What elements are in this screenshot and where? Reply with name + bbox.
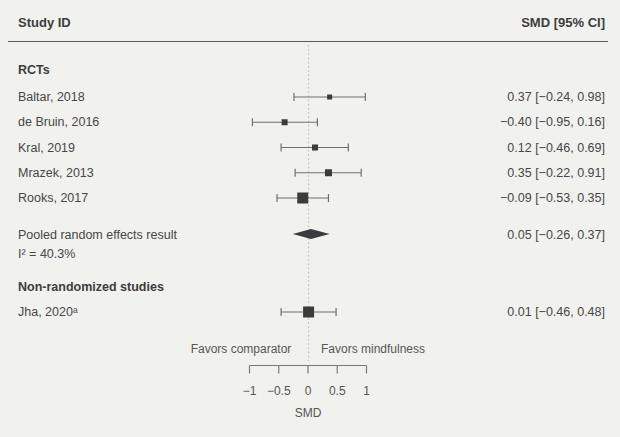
study-label: Kral, 2019	[18, 140, 75, 156]
effect-size-marker	[327, 95, 332, 100]
section-label: RCTs	[18, 62, 50, 78]
pooled-diamond	[293, 229, 330, 239]
study-label: Mrazek, 2013	[18, 165, 94, 181]
study-label: de Bruin, 2016	[18, 114, 99, 130]
study-label: Jha, 2020ᵃ	[18, 304, 78, 320]
pooled-smd-ci-value: 0.05 [−0.26, 0.37]	[507, 227, 605, 243]
x-axis-tick-label: 0.5	[329, 384, 346, 398]
effect-size-marker	[282, 119, 288, 125]
effect-size-marker	[303, 307, 314, 318]
effect-size-marker	[325, 169, 332, 176]
forest-plot-canvas	[0, 0, 620, 437]
favors-mindfulness-label: Favors mindfulness	[321, 342, 425, 356]
study-label: Baltar, 2018	[18, 89, 85, 105]
smd-ci-value: 0.12 [−0.46, 0.69]	[507, 140, 605, 156]
section-label: Non-randomized studies	[18, 279, 164, 295]
x-axis-tick-label: 1	[363, 384, 370, 398]
x-axis-tick-label: −0.5	[267, 384, 291, 398]
effect-size-marker	[312, 145, 318, 151]
effect-size-marker	[297, 193, 308, 204]
x-axis-tick-label: 0	[305, 384, 312, 398]
favors-comparator-label: Favors comparator	[191, 342, 292, 356]
smd-ci-value: −0.09 [−0.53, 0.35]	[500, 190, 605, 206]
smd-ci-value: 0.35 [−0.22, 0.91]	[507, 165, 605, 181]
smd-ci-value: 0.01 [−0.46, 0.48]	[507, 304, 605, 320]
forest-plot-figure: Study ID SMD [95% CI] RCTsBaltar, 20180.…	[0, 0, 620, 437]
x-axis-tick-label: −1	[243, 384, 257, 398]
smd-ci-value: 0.37 [−0.24, 0.98]	[507, 89, 605, 105]
pooled-result-label: Pooled random effects result	[18, 227, 177, 243]
x-axis-title: SMD	[295, 406, 322, 420]
study-label: Rooks, 2017	[18, 190, 88, 206]
smd-ci-value: −0.40 [−0.95, 0.16]	[500, 114, 605, 130]
heterogeneity-label: I² = 40.3%	[18, 246, 75, 262]
